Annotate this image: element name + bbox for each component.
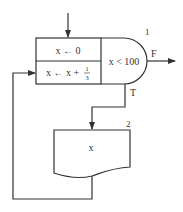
loop-back-arrow <box>13 73 92 199</box>
update-frac-den: 3 <box>85 74 88 81</box>
condition-label: x < 100 <box>109 56 140 67</box>
update-label: x ← x + <box>46 67 82 78</box>
false-label: F <box>151 48 157 59</box>
flowchart: x ← 0 x ← x + 1 3 x < 100 1 F T x 2 <box>0 0 183 212</box>
condition-number: 1 <box>145 27 150 37</box>
update-frac-num: 1 <box>85 65 88 72</box>
output-document-shape <box>54 130 130 177</box>
true-label: T <box>130 87 136 98</box>
output-number: 2 <box>126 119 131 129</box>
init-label: x ← 0 <box>56 45 81 56</box>
output-label: x <box>89 142 94 153</box>
true-arrow <box>92 84 125 129</box>
